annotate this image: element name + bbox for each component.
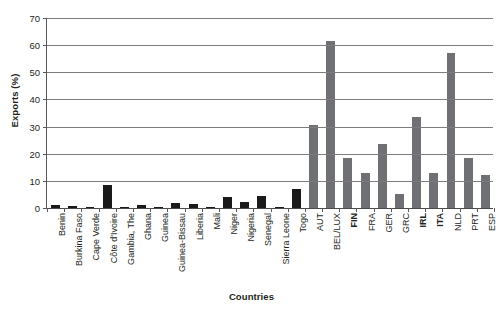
- bars-layer: [47, 18, 493, 208]
- x-tick-mark-21: [408, 208, 409, 212]
- x-axis-label-togo: Togo: [299, 213, 308, 233]
- x-axis-label-esp: ESP: [488, 213, 497, 231]
- gridline-30: [47, 127, 493, 128]
- x-axis-label-burkina-faso: Burkina Faso: [75, 213, 84, 266]
- y-tick-label-50: 50: [29, 67, 40, 78]
- x-axis-label-guinea: Guinea: [161, 213, 170, 242]
- bar-senegal: [257, 196, 266, 208]
- y-axis-title: Exports (%): [9, 56, 20, 146]
- y-tick-label-70: 70: [29, 13, 40, 24]
- exports-bar-chart: Exports (%) 010203040506070 BeninBurkina…: [0, 0, 503, 313]
- chart-title-remnant: [150, 0, 210, 2]
- x-axis-label-c-te-d-ivoire: Côte d'Ivoire: [110, 213, 119, 263]
- bar-nld: [447, 53, 456, 208]
- y-tick-mark-60: [43, 45, 47, 46]
- x-axis-label-cape-verde: Cape Verde: [92, 213, 101, 261]
- x-tick-mark-11: [236, 208, 237, 212]
- x-axis-label-fra: FRA: [368, 213, 377, 231]
- x-axis-label-grc: GRC: [402, 213, 411, 233]
- y-tick-label-60: 60: [29, 40, 40, 51]
- x-axis-label-aut: AUT: [316, 213, 325, 231]
- x-axis-label-bel-lux: BEL/LUX: [333, 213, 342, 250]
- x-tick-mark-8: [185, 208, 186, 212]
- x-tick-mark-20: [391, 208, 392, 212]
- x-axis-label-prt: PRT: [471, 213, 480, 231]
- x-tick-mark-15: [305, 208, 306, 212]
- bar-fin: [343, 158, 352, 208]
- y-tick-mark-40: [43, 99, 47, 100]
- x-tick-mark-24: [460, 208, 461, 212]
- x-axis-label-senegal: Senegal: [264, 213, 273, 246]
- x-axis-label-mali: Mali: [213, 213, 222, 230]
- x-tick-mark-14: [288, 208, 289, 212]
- x-axis-label-ghana: Ghana: [144, 213, 153, 240]
- x-tick-mark-7: [167, 208, 168, 212]
- bar-ita: [429, 173, 438, 208]
- x-tick-mark-12: [253, 208, 254, 212]
- x-axis-label-irl: IRL: [419, 213, 428, 228]
- x-axis-title: Countries: [0, 291, 503, 302]
- x-tick-mark-4: [116, 208, 117, 212]
- x-tick-mark-25: [477, 208, 478, 212]
- x-tick-mark-16: [322, 208, 323, 212]
- x-tick-mark-5: [133, 208, 134, 212]
- x-tick-mark-6: [150, 208, 151, 212]
- gridline-40: [47, 99, 493, 100]
- x-axis-labels: BeninBurkina FasoCape VerdeCôte d'Ivoire…: [46, 213, 493, 288]
- bar-togo: [292, 189, 301, 208]
- x-tick-mark-2: [81, 208, 82, 212]
- x-axis-label-nld: NLD: [454, 213, 463, 231]
- x-axis-label-guinea-bissau: Guinea-Bissau: [178, 213, 187, 272]
- x-axis-label-ita: ITA: [436, 213, 445, 227]
- x-tick-mark-3: [99, 208, 100, 212]
- x-tick-mark-22: [425, 208, 426, 212]
- y-tick-label-40: 40: [29, 94, 40, 105]
- x-tick-mark-0: [47, 208, 48, 212]
- gridline-20: [47, 154, 493, 155]
- x-axis-label-sierra-leone: Sierra Leone: [282, 213, 291, 265]
- x-tick-mark-23: [442, 208, 443, 212]
- y-tick-mark-50: [43, 72, 47, 73]
- x-axis-label-liberia: Liberia: [196, 213, 205, 240]
- x-tick-mark-10: [219, 208, 220, 212]
- x-tick-mark-18: [356, 208, 357, 212]
- x-tick-mark-19: [374, 208, 375, 212]
- bar-grc: [395, 194, 404, 208]
- y-tick-mark-10: [43, 181, 47, 182]
- gridline-60: [47, 45, 493, 46]
- x-axis-label-niger: Niger: [230, 213, 239, 235]
- y-tick-mark-20: [43, 154, 47, 155]
- bar-aut: [309, 125, 318, 208]
- x-axis-label-ger: GER: [385, 213, 394, 233]
- y-tick-mark-30: [43, 127, 47, 128]
- y-tick-label-20: 20: [29, 148, 40, 159]
- x-tick-mark-13: [271, 208, 272, 212]
- bar-irl: [412, 117, 421, 208]
- gridline-10: [47, 181, 493, 182]
- bar-prt: [464, 158, 473, 208]
- x-axis-label-benin: Benin: [58, 213, 67, 236]
- x-tick-mark-9: [202, 208, 203, 212]
- y-tick-label-10: 10: [29, 175, 40, 186]
- bar-bel-lux: [326, 41, 335, 208]
- x-axis-label-nigeria: Nigeria: [247, 213, 256, 242]
- bar-fra: [361, 173, 370, 208]
- x-tick-mark-1: [64, 208, 65, 212]
- gridline-50: [47, 72, 493, 73]
- plot-area: 010203040506070: [46, 18, 493, 208]
- gridline-70: [47, 18, 493, 19]
- bar-c-te-d-ivoire: [103, 185, 112, 208]
- x-axis-label-fin: FIN: [350, 213, 359, 228]
- y-tick-label-0: 0: [35, 203, 40, 214]
- x-tick-mark-end: [494, 208, 495, 212]
- x-tick-mark-17: [339, 208, 340, 212]
- y-tick-mark-70: [43, 18, 47, 19]
- bar-niger: [223, 197, 232, 208]
- y-tick-label-30: 30: [29, 121, 40, 132]
- x-axis-label-gambia-the: Gambia, The: [127, 213, 136, 265]
